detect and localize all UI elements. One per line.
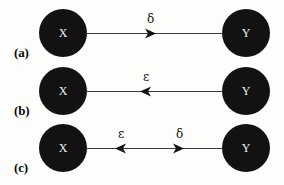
row-label-a: (a) (14, 45, 29, 61)
node-x-row-b: X (39, 67, 87, 115)
node-y-row-a: Y (222, 9, 270, 57)
figure-panel: (a) X Y δ (b) X Y ε (c) X Y ε δ (0, 0, 284, 185)
arrowhead-right-row-a (145, 29, 156, 39)
arrowhead-right-row-c (173, 144, 184, 154)
node-x-row-c: X (39, 124, 87, 172)
node-label-x-row-c: X (59, 142, 68, 154)
node-label-x-row-a: X (59, 27, 68, 39)
node-label-y-row-b: Y (242, 85, 251, 97)
node-label-y-row-c: Y (242, 142, 251, 154)
row-label-c: (c) (14, 160, 28, 176)
node-y-row-c: Y (222, 124, 270, 172)
row-label-b: (b) (14, 103, 29, 119)
edge-symbol-epsilon-row-b: ε (143, 71, 149, 83)
node-x-row-a: X (39, 9, 87, 57)
arrowhead-left-row-c (115, 144, 126, 154)
node-label-x-row-b: X (59, 85, 68, 97)
edge-symbol-epsilon-row-c: ε (118, 128, 124, 140)
edge-symbol-delta-row-c: δ (176, 128, 183, 140)
node-y-row-b: Y (222, 67, 270, 115)
edge-symbol-delta-row-a: δ (147, 13, 154, 25)
node-label-y-row-a: Y (242, 27, 251, 39)
arrowhead-left-row-b (140, 87, 151, 97)
